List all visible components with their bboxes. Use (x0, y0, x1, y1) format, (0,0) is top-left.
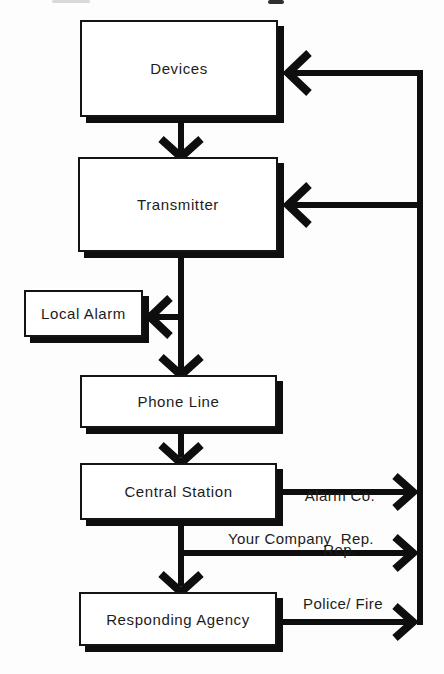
edge-label-alarm-co-rep: Alarm Co. Rep. (288, 451, 392, 595)
box-local-alarm-label: Local Alarm (41, 305, 126, 322)
box-local-alarm: Local Alarm (24, 290, 143, 337)
edge-label-alarm-co-line1: Alarm Co. (288, 487, 392, 505)
box-responding-agency-label: Responding Agency (106, 611, 250, 628)
box-transmitter: Transmitter (78, 157, 278, 252)
box-phone-line: Phone Line (80, 375, 277, 428)
edge-label-your-company-rep: Your Company Rep. (190, 530, 412, 548)
box-responding-agency: Responding Agency (79, 592, 277, 646)
box-devices-label: Devices (150, 60, 208, 77)
box-transmitter-label: Transmitter (137, 196, 219, 213)
edge-label-police-fire: Police/ Fire (290, 595, 396, 613)
box-central-station-label: Central Station (124, 483, 232, 500)
box-phone-line-label: Phone Line (138, 393, 220, 410)
box-central-station: Central Station (80, 463, 277, 520)
box-devices: Devices (80, 20, 278, 117)
flowchart-diagram: Devices Transmitter Local Alarm Phone Li… (0, 0, 444, 674)
